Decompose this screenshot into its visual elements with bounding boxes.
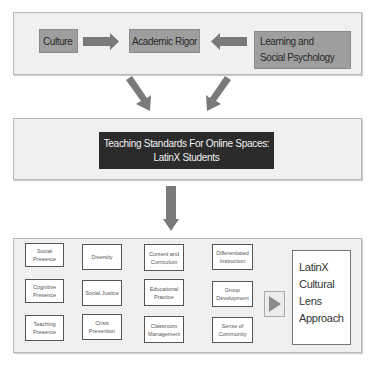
teaching-presence-box: Teaching Presence xyxy=(25,315,64,341)
culture-box: Culture xyxy=(39,29,78,53)
differentiated-instruction-box: Differentiated Instruction xyxy=(212,244,253,270)
down-arrow-icon xyxy=(163,186,179,231)
play-arrow-box xyxy=(264,291,285,317)
content-curriculum-box: Content and Curriculum xyxy=(144,244,184,271)
diagonal-arrow-down-left-icon xyxy=(203,76,233,112)
academic-rigor-label: Academic Rigor xyxy=(132,36,197,47)
culture-label: Culture xyxy=(43,36,72,47)
learning-psychology-box: Learning and Social Psychology xyxy=(254,31,351,69)
classroom-management-box: Classroom Management xyxy=(144,316,184,343)
right-arrow-icon xyxy=(83,33,119,50)
teaching-standards-box: Teaching Standards For Online Spaces: La… xyxy=(99,132,274,169)
crisis-prevention-box: Crisis Prevention xyxy=(82,314,122,340)
diversity-box: Diversity xyxy=(82,244,122,270)
result-line3: Approach xyxy=(299,310,350,327)
social-presence-box: Social Presence xyxy=(25,243,64,267)
group-development-box: Group Development xyxy=(212,281,253,307)
result-line1: LatinX xyxy=(299,259,350,276)
diagonal-arrow-down-right-icon xyxy=(124,76,154,112)
teaching-standards-line2: LatinX Students xyxy=(153,151,219,165)
social-justice-box: Social Justice xyxy=(82,280,122,306)
teaching-standards-line1: Teaching Standards For Online Spaces: xyxy=(104,137,270,151)
academic-rigor-box: Academic Rigor xyxy=(129,29,200,53)
play-triangle-icon xyxy=(265,292,284,316)
educational-practice-box: Educational Practice xyxy=(144,279,184,306)
sense-of-community-box: Sense of Community xyxy=(212,317,253,343)
result-line2: Cultural Lens xyxy=(299,276,350,310)
latinx-cultural-lens-box: LatinX Cultural Lens Approach xyxy=(292,250,351,345)
learning-psychology-label: Learning and Social Psychology xyxy=(260,34,340,66)
left-arrow-icon xyxy=(211,33,247,50)
cognitive-presence-box: Cognitive Presence xyxy=(25,279,64,303)
